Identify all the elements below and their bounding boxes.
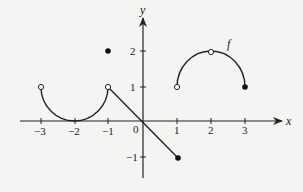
lower-semicircle-piece (41, 87, 108, 121)
x-tick-labels: −3 −2 −1 0 1 2 3 (34, 123, 248, 137)
open-point-2-2 (208, 49, 213, 54)
open-point-1-1 (174, 84, 179, 89)
svg-text:2: 2 (208, 124, 214, 136)
svg-text:1: 1 (174, 124, 180, 136)
closed-point-1-neg1 (175, 155, 181, 161)
upper-semicircle-piece (177, 51, 245, 87)
function-graph: x y −3 −2 −1 0 1 2 3 2 1 −1 f (0, 0, 303, 192)
open-points (38, 49, 213, 89)
open-point-neg3-1 (38, 84, 43, 89)
closed-point-neg1-2 (105, 48, 111, 54)
function-label: f (227, 37, 232, 51)
svg-text:2: 2 (130, 45, 136, 57)
svg-text:0: 0 (133, 123, 139, 135)
open-point-neg1-1 (105, 84, 110, 89)
y-tick-labels: 2 1 −1 (126, 45, 138, 163)
x-axis-label: x (285, 114, 292, 128)
svg-text:−1: −1 (102, 125, 114, 137)
closed-points (105, 48, 248, 161)
svg-text:−2: −2 (68, 125, 80, 137)
svg-text:3: 3 (242, 124, 248, 136)
y-axis-label: y (139, 3, 146, 17)
svg-text:1: 1 (130, 81, 136, 93)
closed-point-3-1 (242, 84, 248, 90)
svg-text:−3: −3 (34, 125, 46, 137)
svg-text:−1: −1 (126, 151, 138, 163)
